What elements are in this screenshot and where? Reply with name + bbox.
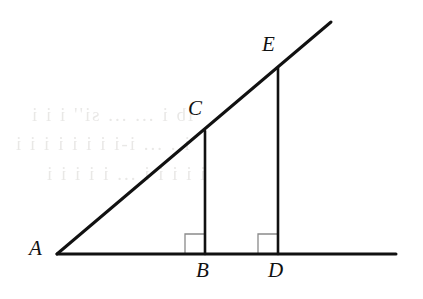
right-angle-at-D-icon bbox=[258, 234, 278, 254]
geometry-canvas bbox=[0, 0, 423, 299]
ray-A-through-C-E bbox=[57, 22, 331, 254]
vertex-label-A: A bbox=[29, 238, 42, 259]
vertex-label-C: C bbox=[188, 98, 202, 119]
vertex-label-D: D bbox=[268, 260, 283, 281]
geometry-diagram: ib i ... ... si'' i i i i . ... i-i i i … bbox=[0, 0, 423, 299]
right-angle-at-B-icon bbox=[185, 234, 205, 254]
vertex-label-E: E bbox=[262, 34, 275, 55]
vertex-label-B: B bbox=[196, 260, 209, 281]
